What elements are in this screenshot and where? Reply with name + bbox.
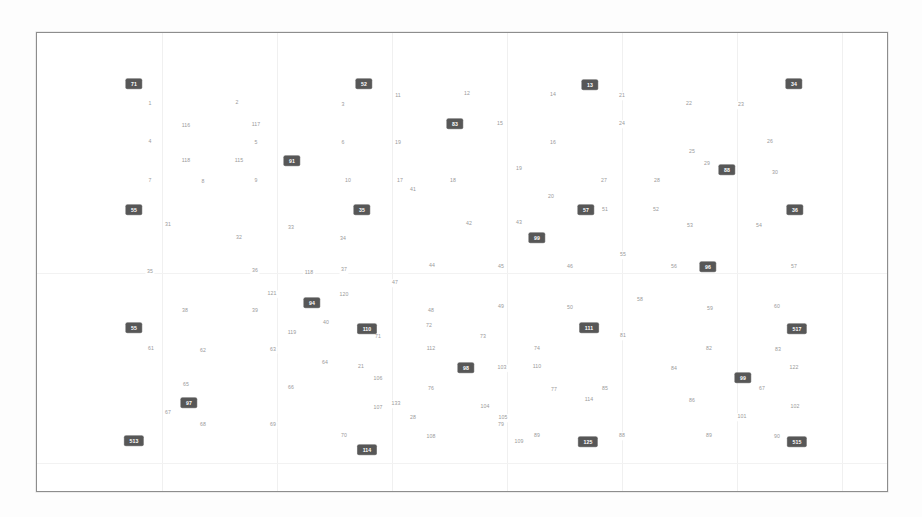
node-label: 102: [789, 403, 801, 411]
node-label: 109: [513, 438, 525, 446]
node-label: 33: [286, 224, 295, 232]
node-label: 49: [496, 303, 505, 311]
node-label: 32: [234, 234, 243, 242]
node-label: 70: [339, 432, 348, 440]
node-label-highlighted: 515: [787, 437, 806, 447]
node-label: 17: [395, 177, 404, 185]
node-label: 118: [180, 157, 192, 165]
node-label: 107: [372, 404, 384, 412]
node-label-highlighted: 110: [357, 324, 376, 334]
node-label: 68: [198, 421, 207, 429]
node-label: 89: [704, 432, 713, 440]
node-label-highlighted: 99: [529, 233, 545, 243]
node-label: 61: [146, 345, 155, 353]
node-label: 41: [408, 186, 417, 194]
node-label: 30: [770, 169, 779, 177]
node-label: 45: [496, 263, 505, 271]
node-label: 67: [757, 385, 766, 393]
node-label: 3: [340, 101, 346, 109]
plot-frame: 1231112142122231161171524456191625261181…: [36, 32, 888, 492]
node-label: 19: [514, 165, 523, 173]
node-label: 63: [268, 346, 277, 354]
node-label: 21: [356, 363, 365, 371]
node-label: 67: [163, 409, 172, 417]
node-label: 22: [684, 100, 693, 108]
node-label: 59: [705, 305, 714, 313]
node-label: 11: [394, 92, 403, 100]
node-label: 72: [424, 322, 433, 330]
node-label: 133: [390, 400, 402, 408]
node-label: 66: [286, 384, 295, 392]
node-label: 51: [600, 206, 609, 214]
node-label: 118: [303, 269, 315, 277]
figure-canvas: 1231112142122231161171524456191625261181…: [0, 0, 922, 517]
node-label-highlighted: 513: [124, 436, 143, 446]
node-label-highlighted: 52: [356, 79, 372, 89]
node-label: 10: [343, 177, 352, 185]
node-label: 19: [393, 139, 402, 147]
scatter-points: 1231112142122231161171524456191625261181…: [37, 33, 887, 491]
node-label-highlighted: 57: [578, 205, 594, 215]
node-label: 83: [773, 346, 782, 354]
node-label-highlighted: 96: [700, 262, 716, 272]
node-label: 64: [320, 359, 329, 367]
node-label: 18: [448, 177, 457, 185]
node-label: 2: [234, 99, 240, 107]
node-label: 39: [250, 307, 259, 315]
node-label: 104: [479, 403, 491, 411]
node-label: 43: [514, 219, 523, 227]
node-label: 115: [233, 157, 245, 165]
node-label: 25: [687, 148, 696, 156]
node-label: 35: [145, 268, 154, 276]
node-label-highlighted: 34: [786, 79, 802, 89]
node-label: 108: [425, 433, 437, 441]
node-label: 36: [250, 267, 259, 275]
node-label: 7: [147, 177, 153, 185]
node-label: 55: [618, 251, 627, 259]
node-label: 15: [495, 120, 504, 128]
node-label: 53: [685, 222, 694, 230]
node-label: 6: [340, 139, 346, 147]
node-label: 57: [789, 263, 798, 271]
node-label-highlighted: 94: [304, 298, 320, 308]
node-label: 81: [618, 332, 627, 340]
node-label: 85: [600, 385, 609, 393]
node-label: 31: [163, 221, 172, 229]
node-label: 42: [464, 220, 473, 228]
node-label: 101: [736, 413, 748, 421]
node-label-highlighted: 83: [447, 119, 463, 129]
node-label-highlighted: 111: [580, 323, 599, 333]
node-label-highlighted: 55: [126, 323, 142, 333]
node-label: 56: [669, 263, 678, 271]
node-label: 88: [617, 432, 626, 440]
node-label: 121: [266, 290, 278, 298]
node-label: 9: [253, 177, 259, 185]
node-label: 73: [478, 333, 487, 341]
node-label-highlighted: 114: [357, 445, 376, 455]
node-label: 27: [599, 177, 608, 185]
node-label: 116: [180, 122, 192, 130]
node-label: 12: [462, 90, 471, 98]
node-label: 76: [426, 385, 435, 393]
node-label: 14: [548, 91, 557, 99]
node-label-highlighted: 71: [126, 79, 142, 89]
node-label: 21: [617, 92, 626, 100]
node-label: 26: [765, 138, 774, 146]
node-label-highlighted: 13: [582, 80, 598, 90]
node-label: 52: [651, 206, 660, 214]
node-label-highlighted: 88: [719, 165, 735, 175]
node-label: 114: [583, 396, 595, 404]
node-label: 120: [338, 291, 350, 299]
node-label: 16: [548, 139, 557, 147]
node-label: 84: [669, 365, 678, 373]
node-label: 122: [788, 364, 800, 372]
node-label: 44: [427, 262, 436, 270]
node-label-highlighted: 99: [735, 373, 751, 383]
node-label: 8: [200, 178, 206, 186]
node-label: 110: [531, 363, 543, 371]
node-label: 65: [181, 381, 190, 389]
node-label-highlighted: 35: [354, 205, 370, 215]
node-label: 103: [496, 364, 508, 372]
node-label: 82: [704, 345, 713, 353]
node-label: 23: [736, 101, 745, 109]
